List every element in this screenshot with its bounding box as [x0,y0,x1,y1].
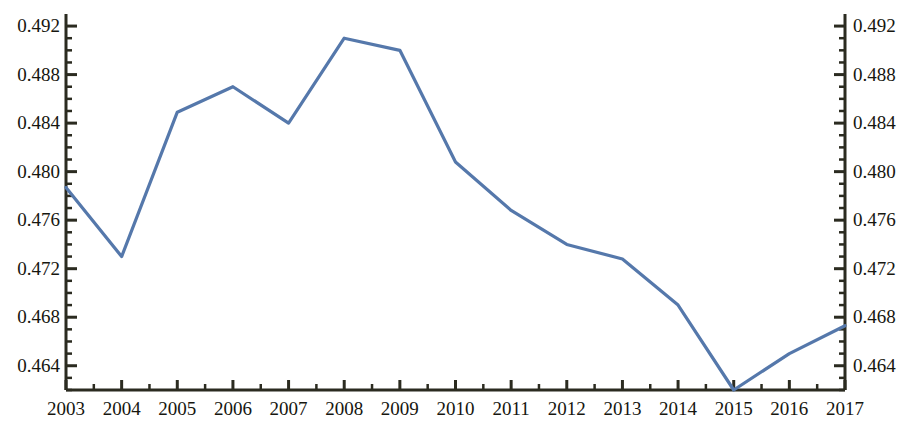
left-axis-tick-label: 0.476 [17,210,60,229]
right-axis-tick-label: 0.472 [853,259,896,278]
right-axis-tick-label: 0.488 [853,65,896,84]
data-series-group [66,38,845,390]
chart-canvas [0,0,910,428]
right-axis-tick-label: 0.468 [853,307,896,326]
left-axis-tick-label: 0.468 [17,307,60,326]
left-axis-tick-label: 0.464 [17,356,60,375]
right-axis-tick-label: 0.464 [853,356,896,375]
x-axis-tick-label: 2011 [485,399,537,418]
left-axis-tick-label: 0.472 [17,259,60,278]
right-axis-tick-label: 0.476 [853,210,896,229]
left-axis-tick-label: 0.492 [17,16,60,35]
x-axis-tick-label: 2014 [652,399,704,418]
left-axis-tick-label: 0.484 [17,113,60,132]
right-axis-tick-label: 0.480 [853,162,896,181]
x-axis-tick-label: 2009 [374,399,426,418]
right-axis-tick-label: 0.484 [853,113,896,132]
x-axis-tick-label: 2006 [207,399,259,418]
left-axis-tick-label: 0.488 [17,65,60,84]
x-axis-tick-label: 2013 [596,399,648,418]
axes-group [66,14,845,390]
x-axis-tick-label: 2007 [263,399,315,418]
x-axis-tick-label: 2012 [541,399,593,418]
x-axis-tick-label: 2015 [708,399,760,418]
x-axis-tick-label: 2008 [318,399,370,418]
left-axis-tick-label: 0.480 [17,162,60,181]
x-axis-tick-label: 2010 [430,399,482,418]
x-axis-tick-label: 2003 [40,399,92,418]
right-axis-tick-label: 0.492 [853,16,896,35]
series-line-1 [66,38,845,390]
x-axis-tick-label: 2005 [151,399,203,418]
x-axis-tick-label: 2004 [96,399,148,418]
x-axis-tick-label: 2017 [819,399,871,418]
line-chart: 0.4640.4680.4720.4760.4800.4840.4880.492… [0,0,910,428]
x-axis-tick-label: 2016 [763,399,815,418]
